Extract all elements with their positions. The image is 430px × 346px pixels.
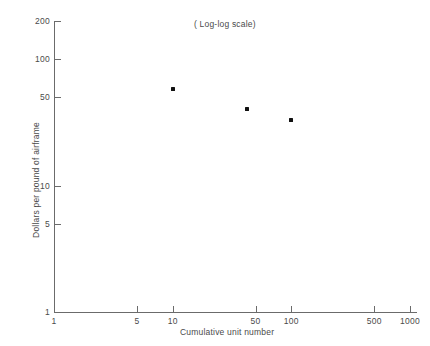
y-tick-mark bbox=[55, 59, 61, 60]
y-axis-title: Dollars per pound of airframe bbox=[31, 100, 41, 260]
x-tick-mark bbox=[54, 306, 55, 312]
x-tick-mark bbox=[173, 306, 174, 312]
y-tick-label: 1 bbox=[18, 307, 50, 317]
data-point bbox=[289, 118, 293, 122]
x-tick-mark bbox=[291, 306, 292, 312]
x-tick-label: 10 bbox=[168, 316, 178, 326]
y-tick-mark bbox=[55, 186, 61, 187]
data-point bbox=[245, 107, 249, 111]
x-tick-label: 100 bbox=[284, 316, 299, 326]
x-tick-label: 1 bbox=[51, 316, 56, 326]
x-tick-mark bbox=[256, 306, 257, 312]
y-axis-line bbox=[54, 21, 55, 313]
scale-annotation: ( Log-log scale) bbox=[194, 19, 256, 29]
x-tick-mark bbox=[374, 306, 375, 312]
x-tick-label: 50 bbox=[251, 316, 261, 326]
data-point bbox=[171, 87, 175, 91]
y-tick-label: 200 bbox=[18, 16, 50, 26]
x-tick-mark bbox=[410, 306, 411, 312]
y-tick-mark bbox=[55, 224, 61, 225]
y-tick-mark bbox=[55, 97, 61, 98]
log-log-scatter-chart: 151050100200 1510501005001000 Dollars pe… bbox=[0, 0, 430, 346]
x-tick-label: 1000 bbox=[400, 316, 420, 326]
y-tick-mark bbox=[55, 21, 61, 22]
x-tick-mark bbox=[137, 306, 138, 312]
x-tick-label: 500 bbox=[367, 316, 382, 326]
y-tick-label: 100 bbox=[18, 54, 50, 64]
x-axis-title: Cumulative unit number bbox=[180, 327, 274, 337]
x-tick-label: 5 bbox=[134, 316, 139, 326]
x-axis-line bbox=[54, 312, 417, 313]
y-tick-mark bbox=[55, 312, 61, 313]
